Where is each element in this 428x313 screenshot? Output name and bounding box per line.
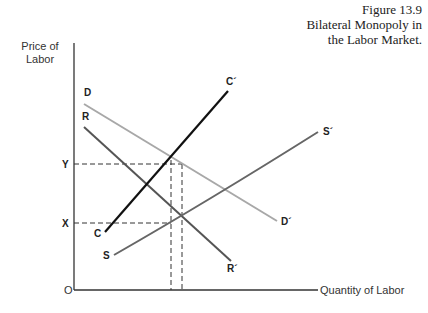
level-y-label: Y [62,159,69,170]
x-axis-label: Quantity of Labor [320,284,405,296]
curve-c-start-label: C [94,228,101,239]
demand-curve-d [84,104,277,221]
curve-d-start-label: D [84,87,91,98]
curve-s-start-label: S [103,250,110,261]
y-axis-label-line1: Price of [21,40,59,52]
origin-label: O [64,284,73,296]
level-x-label: X [62,218,69,229]
supply-curve-s [114,132,318,255]
curve-r-end-label: R´ [227,263,238,274]
curve-c-end-label: C´ [226,76,237,87]
curve-r [84,127,231,261]
bilateral-monopoly-diagram: Price of Labor Quantity of Labor O Y X D… [0,0,428,313]
curve-s-end-label: S´ [323,126,333,137]
y-axis-label-line2: Labor [26,53,54,65]
curve-c [105,91,228,232]
curve-d-end-label: D´ [281,216,292,227]
curve-r-start-label: R [82,111,90,122]
